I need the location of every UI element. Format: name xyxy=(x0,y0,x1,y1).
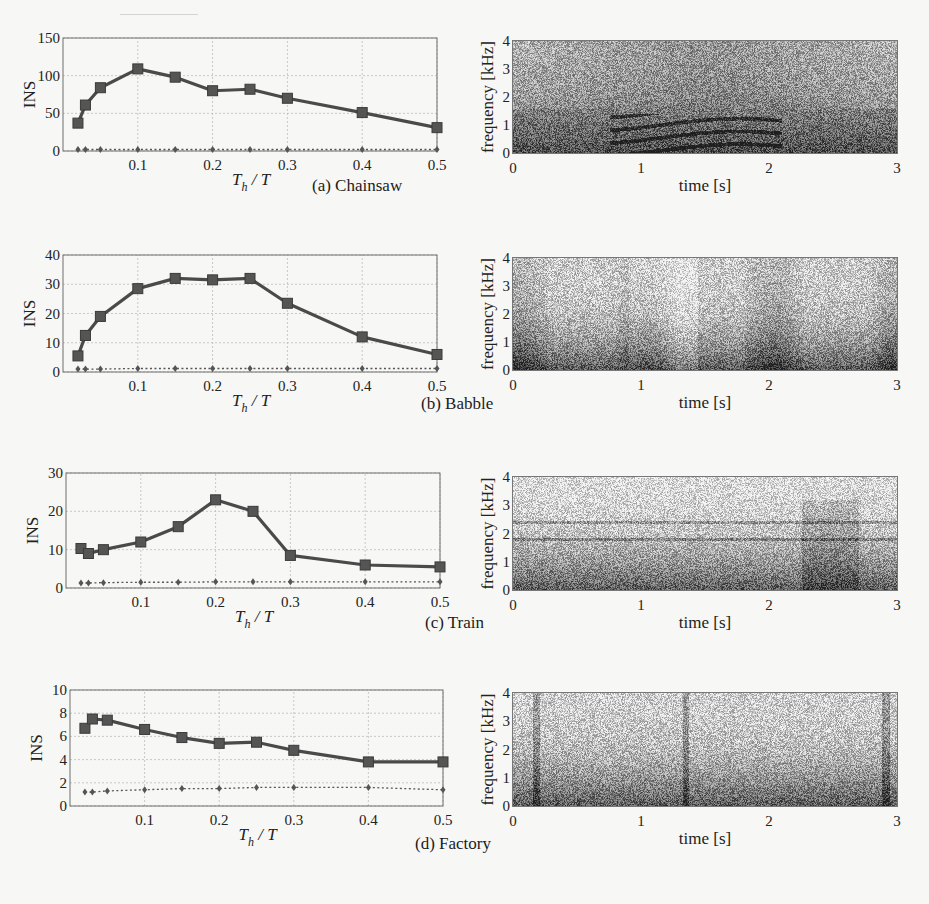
square-marker xyxy=(252,737,262,747)
time-axis-label: time [s] xyxy=(679,829,731,848)
diamond-marker xyxy=(142,786,147,793)
frequency-axis-label: frequency [kHz] xyxy=(478,41,497,153)
diamond-marker xyxy=(135,146,140,153)
square-marker xyxy=(73,351,83,361)
y-tick-label: 10 xyxy=(52,682,67,698)
diamond-marker xyxy=(173,146,178,153)
y-axis-label: INS xyxy=(20,300,39,327)
square-marker xyxy=(245,273,255,283)
x-tick-label: 0.1 xyxy=(131,594,150,610)
diamond-marker xyxy=(291,784,296,791)
freq-tick: 0 xyxy=(503,145,511,161)
time-axis-label: time [s] xyxy=(679,393,731,412)
time-tick: 0 xyxy=(509,597,517,613)
diamond-marker xyxy=(285,365,290,372)
square-marker xyxy=(87,714,97,724)
freq-tick: 3 xyxy=(503,713,511,729)
y-tick-label: 10 xyxy=(48,542,63,558)
square-marker xyxy=(432,349,442,359)
freq-tick: 4 xyxy=(503,33,511,49)
freq-tick: 4 xyxy=(503,250,511,266)
square-marker xyxy=(208,275,218,285)
y-tick-label: 150 xyxy=(38,30,61,46)
y-tick-label: 0 xyxy=(60,798,68,814)
square-marker xyxy=(170,72,180,82)
x-tick-label: 0.2 xyxy=(203,157,222,173)
square-marker xyxy=(140,724,150,734)
y-tick-label: 10 xyxy=(45,335,60,351)
freq-tick: 1 xyxy=(503,554,511,570)
x-axis-label: Th / T xyxy=(235,607,275,631)
diamond-marker xyxy=(360,146,365,153)
square-marker xyxy=(357,332,367,342)
x-axis-label: Th / T xyxy=(232,170,272,194)
x-axis-label: Th / T xyxy=(239,825,279,849)
x-tick-label: 0.4 xyxy=(353,157,372,173)
time-tick: 1 xyxy=(637,160,645,176)
y-tick-label: 0 xyxy=(53,364,61,380)
time-tick: 1 xyxy=(637,813,645,829)
time-tick: 3 xyxy=(893,377,901,393)
freq-tick: 2 xyxy=(503,306,511,322)
ins-chart-a: 0501001500.10.20.30.40.5INSTh / T xyxy=(20,30,446,194)
diamond-marker xyxy=(98,146,103,153)
square-marker xyxy=(80,100,90,110)
freq-tick: 4 xyxy=(503,469,511,485)
x-axis-label: Th / T xyxy=(232,391,272,415)
diamond-marker xyxy=(251,578,256,585)
x-tick-label: 0.1 xyxy=(135,812,154,828)
x-tick-label: 0.5 xyxy=(431,594,450,610)
diamond-marker xyxy=(441,786,446,793)
square-marker xyxy=(363,757,373,767)
y-tick-label: 50 xyxy=(45,105,60,121)
ins-chart-d: 02468100.10.20.30.40.5INSTh / T xyxy=(27,682,452,849)
diamond-marker xyxy=(90,789,95,796)
freq-tick: 1 xyxy=(503,117,511,133)
x-tick-label: 0.1 xyxy=(128,157,147,173)
x-tick-label: 0.3 xyxy=(278,378,297,394)
diamond-marker xyxy=(210,146,215,153)
square-marker xyxy=(282,298,292,308)
diamond-marker xyxy=(288,578,293,585)
x-tick-label: 0.2 xyxy=(210,812,229,828)
x-tick-label: 0.3 xyxy=(281,594,300,610)
y-tick-label: 30 xyxy=(45,276,60,292)
spectrogram-factory xyxy=(513,693,897,806)
freq-tick: 0 xyxy=(503,582,511,598)
square-marker xyxy=(208,86,218,96)
freq-tick: 3 xyxy=(503,278,511,294)
diamond-marker xyxy=(173,365,178,372)
x-tick-label: 0.4 xyxy=(359,812,378,828)
diamond-marker xyxy=(105,787,110,794)
freq-tick: 3 xyxy=(503,497,511,513)
square-marker xyxy=(73,118,83,128)
square-marker xyxy=(289,745,299,755)
time-tick: 2 xyxy=(765,597,773,613)
diamond-marker xyxy=(248,146,253,153)
diamond-marker xyxy=(435,146,440,153)
diamond-marker xyxy=(360,365,365,372)
y-tick-label: 6 xyxy=(60,728,68,744)
square-marker xyxy=(282,93,292,103)
diamond-marker xyxy=(82,789,87,796)
frequency-axis-label: frequency [kHz] xyxy=(478,694,497,806)
diamond-marker xyxy=(248,365,253,372)
diamond-marker xyxy=(435,365,440,372)
y-tick-label: 0 xyxy=(56,580,64,596)
diamond-marker xyxy=(213,578,218,585)
freq-tick: 0 xyxy=(503,798,511,814)
square-marker xyxy=(136,537,146,547)
x-tick-label: 0.3 xyxy=(284,812,303,828)
y-axis-label: INS xyxy=(20,81,39,108)
time-tick: 0 xyxy=(509,813,517,829)
diamond-marker xyxy=(101,579,106,586)
y-tick-label: 4 xyxy=(60,752,68,768)
diamond-marker xyxy=(366,784,371,791)
square-marker xyxy=(435,562,445,572)
x-tick-label: 0.4 xyxy=(353,378,372,394)
square-marker xyxy=(170,273,180,283)
square-marker xyxy=(95,83,105,93)
time-tick: 0 xyxy=(509,377,517,393)
diamond-marker xyxy=(86,580,91,587)
square-marker xyxy=(177,733,187,743)
